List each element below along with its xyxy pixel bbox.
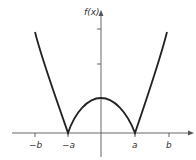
y-axis-label: f(x) [84, 7, 100, 17]
x-label-neg-a: −a [62, 140, 75, 150]
function-graph: f(x) −b −a a b [0, 0, 196, 160]
x-label-neg-b: −b [29, 140, 43, 150]
x-label-pos-b: b [166, 140, 172, 150]
x-label-pos-a: a [132, 140, 138, 150]
x-axis-arrow-icon [188, 131, 194, 136]
